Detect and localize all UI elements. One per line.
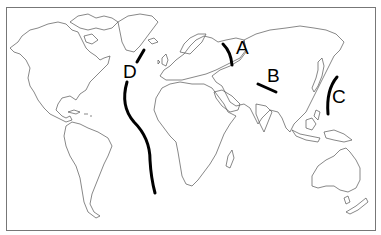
label-c: C [332,86,346,107]
map-border [7,8,376,231]
label-b: B [267,65,280,86]
world-map: A B C D [0,0,381,235]
label-d: D [123,61,137,82]
label-a: A [236,37,249,58]
